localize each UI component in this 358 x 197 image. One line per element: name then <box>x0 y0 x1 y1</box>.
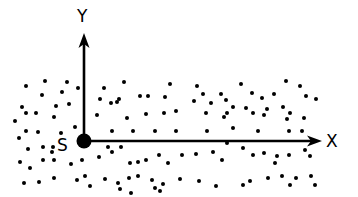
diagram-canvas: Y X S <box>0 0 358 197</box>
x-axis <box>84 136 322 147</box>
y-axis-label: Y <box>77 8 87 25</box>
x-axis-label: X <box>326 133 338 150</box>
origin-point-icon <box>77 134 92 149</box>
origin-label: S <box>57 137 68 154</box>
axes <box>0 0 358 197</box>
y-axis <box>79 33 90 141</box>
